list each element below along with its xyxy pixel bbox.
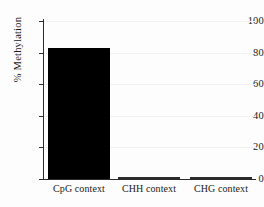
x-tick-label: CpG context <box>42 183 116 194</box>
bar-chart-figure: % Methylation 020406080100 CpG contextCH… <box>0 0 264 207</box>
y-axis-title: % Methylation <box>12 0 23 105</box>
y-tick-mark <box>39 179 44 180</box>
bar <box>190 177 252 179</box>
bar <box>48 48 110 179</box>
x-axis-line <box>43 179 256 180</box>
x-tick-label: CHH context <box>112 183 186 194</box>
gridline <box>44 21 256 22</box>
plot-area <box>44 21 256 179</box>
x-tick-label: CHG context <box>184 183 258 194</box>
bar <box>118 177 180 179</box>
